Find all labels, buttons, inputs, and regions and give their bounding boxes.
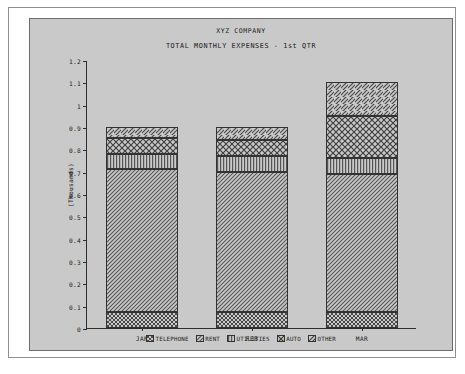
bar-segment-other[interactable] (106, 127, 178, 138)
x-tick-mark (142, 328, 143, 331)
y-tick-label: 0.6 (69, 192, 81, 199)
y-tick-mark (83, 329, 87, 330)
x-tick-mark (362, 328, 363, 331)
y-tick-label: 0.7 (69, 169, 81, 176)
bar-segment-utilities[interactable] (106, 154, 178, 170)
plot-area: 00.10.20.30.40.50.60.70.80.911.11.2 JANF… (86, 61, 416, 329)
y-tick-label: 0.5 (69, 214, 81, 221)
bar-group-mar[interactable]: MAR (326, 82, 398, 328)
legend-label: UTILITIES (237, 336, 270, 342)
bar-segment-rent[interactable] (216, 172, 288, 313)
bar-segment-utilities[interactable] (216, 156, 288, 172)
chart-legend: TELEPHONERENTUTILITIESAUTOOTHER (30, 335, 452, 342)
bar-series-container: JANFEBMAR (87, 61, 416, 328)
chart-subtitle: TOTAL MONTHLY EXPENSES - 1st QTR (30, 41, 452, 51)
bar-segment-auto[interactable] (106, 138, 178, 154)
legend-swatch-icon (146, 335, 154, 342)
bar-segment-telephone[interactable] (106, 312, 178, 328)
bar-segment-rent[interactable] (326, 174, 398, 312)
bar-segment-other[interactable] (326, 82, 398, 116)
y-tick-label: 1.1 (69, 80, 81, 87)
legend-item-telephone[interactable]: TELEPHONE (146, 335, 189, 342)
bar-group-feb[interactable]: FEB (216, 127, 288, 328)
bar-group-jan[interactable]: JAN (106, 127, 178, 328)
legend-swatch-icon (308, 335, 316, 342)
plot-wrapper: 00.10.20.30.40.50.60.70.80.911.11.2 JANF… (86, 61, 416, 329)
legend-item-other[interactable]: OTHER (308, 335, 336, 342)
chart-screenshot: XYZ COMPANY TOTAL MONTHLY EXPENSES - 1st… (0, 0, 465, 374)
legend-label: RENT (205, 336, 220, 342)
y-tick-label: 0.9 (69, 125, 81, 132)
y-tick-label: 0.4 (69, 236, 81, 243)
chart-card: XYZ COMPANY TOTAL MONTHLY EXPENSES - 1st… (29, 18, 453, 351)
bar-segment-utilities[interactable] (326, 158, 398, 174)
page-frame: XYZ COMPANY TOTAL MONTHLY EXPENSES - 1st… (8, 7, 456, 358)
legend-swatch-icon (277, 335, 285, 342)
y-tick-label: 1 (77, 102, 81, 109)
legend-label: TELEPHONE (156, 336, 189, 342)
bar-segment-auto[interactable] (326, 116, 398, 158)
y-tick-label: 0.1 (69, 303, 81, 310)
legend-swatch-icon (227, 335, 235, 342)
bar-segment-telephone[interactable] (216, 312, 288, 328)
legend-swatch-icon (196, 335, 204, 342)
y-tick-label: 0.8 (69, 147, 81, 154)
bar-segment-auto[interactable] (216, 140, 288, 156)
bar-segment-rent[interactable] (106, 169, 178, 312)
legend-label: AUTO (286, 336, 301, 342)
chart-title: XYZ COMPANY (30, 26, 452, 36)
y-tick-label: 0.2 (69, 281, 81, 288)
chart-titles: XYZ COMPANY TOTAL MONTHLY EXPENSES - 1st… (30, 26, 452, 51)
y-tick-label: 0 (77, 326, 81, 333)
x-tick-mark (252, 328, 253, 331)
legend-item-utilities[interactable]: UTILITIES (227, 335, 270, 342)
legend-item-auto[interactable]: AUTO (277, 335, 301, 342)
legend-item-rent[interactable]: RENT (196, 335, 220, 342)
y-tick-label: 1.2 (69, 58, 81, 65)
legend-label: OTHER (318, 336, 336, 342)
bar-segment-telephone[interactable] (326, 312, 398, 328)
bar-segment-other[interactable] (216, 127, 288, 140)
y-tick-label: 0.3 (69, 259, 81, 266)
